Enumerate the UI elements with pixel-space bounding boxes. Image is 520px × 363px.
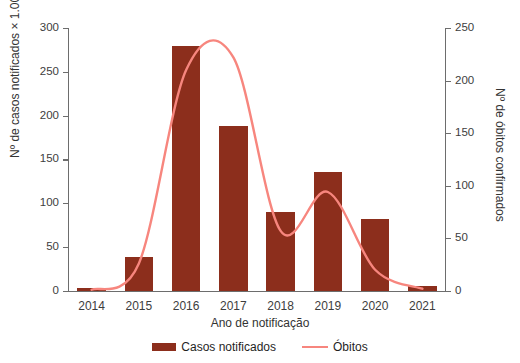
right-tick-label: 0	[455, 285, 461, 297]
left-tick-mark	[63, 116, 68, 117]
bar	[125, 257, 153, 291]
right-tick-label: 100	[455, 180, 474, 192]
cropped-title-fragment	[60, 0, 320, 9]
left-tick-label: 100	[40, 197, 59, 209]
left-tick-label: 300	[40, 22, 59, 34]
left-axis-title: Nº de casos notificados × 1.000	[9, 0, 21, 158]
x-tick-label: 2021	[409, 300, 436, 312]
bar	[266, 212, 294, 291]
bar-swatch-icon	[152, 343, 176, 351]
right-tick-label: 150	[455, 127, 474, 139]
bar	[408, 286, 436, 290]
x-tick-label: 2017	[220, 300, 247, 312]
left-tick-mark	[63, 72, 68, 73]
chart-legend: Casos notificados Óbitos	[0, 341, 520, 353]
bar	[77, 288, 105, 291]
right-axis-title: Nº de óbitos confirmados	[494, 88, 506, 222]
left-tick-label: 0	[53, 285, 59, 297]
bar	[219, 126, 247, 291]
left-tick-mark	[63, 159, 68, 160]
right-tick-mark	[446, 133, 451, 134]
x-tick-label: 2019	[315, 300, 342, 312]
right-tick-mark	[446, 238, 451, 239]
chart-figure: 050100150200250300 050100150200250 20142…	[0, 0, 520, 363]
left-tick-label: 200	[40, 110, 59, 122]
left-tick-label: 150	[40, 154, 59, 166]
x-tick-label: 2015	[126, 300, 153, 312]
legend-item-obitos: Óbitos	[302, 341, 368, 353]
x-tick-label: 2014	[78, 300, 105, 312]
right-tick-mark	[446, 28, 451, 29]
right-tick-label: 50	[455, 232, 468, 244]
x-tick-label: 2018	[267, 300, 294, 312]
legend-item-casos-notificados: Casos notificados	[152, 341, 276, 353]
left-tick-label: 250	[40, 66, 59, 78]
right-tick-mark	[446, 186, 451, 187]
plot-area: 050100150200250300 050100150200250 20142…	[68, 24, 446, 292]
line-swatch-icon	[302, 346, 328, 348]
left-axis-line	[68, 28, 69, 292]
right-tick-mark	[446, 291, 451, 292]
bottom-axis-line	[68, 291, 446, 292]
x-tick-label: 2020	[362, 300, 389, 312]
right-tick-label: 200	[455, 75, 474, 87]
left-tick-mark	[63, 203, 68, 204]
left-tick-label: 50	[46, 241, 59, 253]
left-tick-mark	[63, 247, 68, 248]
legend-label-casos-notificados: Casos notificados	[181, 341, 276, 353]
legend-label-obitos: Óbitos	[333, 341, 368, 353]
bar	[361, 219, 389, 291]
right-tick-label: 250	[455, 22, 474, 34]
x-tick-label: 2016	[173, 300, 200, 312]
right-axis-line	[445, 28, 446, 292]
line-series-obitos	[68, 24, 446, 292]
right-tick-mark	[446, 81, 451, 82]
left-tick-mark	[63, 291, 68, 292]
bar	[172, 46, 200, 291]
left-tick-mark	[63, 28, 68, 29]
x-axis-title: Ano de notificação	[211, 317, 310, 329]
bar	[314, 172, 342, 291]
